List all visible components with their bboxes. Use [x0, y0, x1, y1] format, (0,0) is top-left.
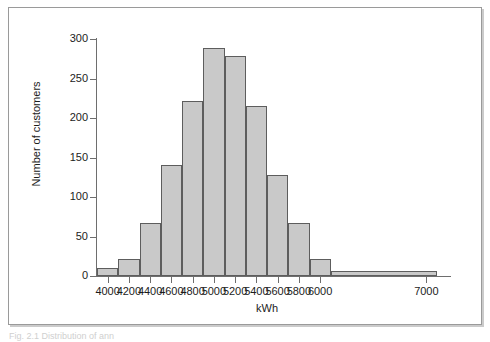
figure-frame: Number of customers 0 50 100 150 200 250…: [8, 7, 482, 325]
histogram-bar: [288, 223, 309, 276]
y-axis-tick-label: 200: [54, 112, 88, 123]
y-axis-tick-label: 150: [54, 152, 88, 163]
x-axis-tick: [193, 277, 194, 283]
histogram-bar: [118, 259, 139, 276]
x-axis-tick: [235, 277, 236, 283]
y-axis-tick-label-group: 100: [50, 191, 88, 202]
histogram-bar: [161, 165, 182, 276]
y-axis-tick-label-group: 50: [50, 231, 88, 242]
y-axis-tick-label: 100: [54, 191, 88, 202]
x-axis-tick: [129, 277, 130, 283]
y-axis-tick-label-group: 0: [50, 270, 88, 281]
y-axis-tick: [90, 197, 96, 198]
histogram-bar: [225, 56, 246, 276]
y-axis-tick-label: 250: [54, 73, 88, 84]
y-axis-tick-label: 300: [54, 33, 88, 44]
histogram-bar: [182, 101, 203, 276]
y-axis-title: Number of customers: [30, 64, 42, 204]
x-axis-tick: [256, 277, 257, 283]
x-axis-tick: [171, 277, 172, 283]
y-axis-tick-label-group: 150: [50, 152, 88, 163]
y-axis-tick-label: 0: [54, 270, 88, 281]
plot-area: [97, 39, 437, 276]
histogram-bar: [140, 223, 161, 276]
y-axis-tick: [90, 237, 96, 238]
histogram-bar: [203, 48, 224, 276]
x-axis-tick: [299, 277, 300, 283]
x-axis-tick: [426, 277, 427, 283]
x-axis-title: kWh: [97, 302, 437, 314]
x-axis-tick: [150, 277, 151, 283]
x-axis-tick-label: 7000: [410, 285, 442, 297]
histogram-bar: [246, 106, 267, 276]
x-axis-tick-label: 6000: [304, 285, 336, 297]
histogram-bar: [310, 259, 331, 276]
y-axis-tick-label-group: 250: [50, 73, 88, 84]
figure-caption: Fig. 2.1 Distribution of ann: [9, 331, 479, 342]
histogram-bar: [267, 175, 288, 276]
y-axis-tick: [90, 39, 96, 40]
x-axis-tick: [108, 277, 109, 283]
y-axis-tick: [90, 158, 96, 159]
x-axis-tick: [278, 277, 279, 283]
figure-page: Number of customers 0 50 100 150 200 250…: [0, 0, 490, 342]
y-axis-tick-label-group: 300: [50, 33, 88, 44]
y-axis-tick: [90, 79, 96, 80]
y-axis-tick-label: 50: [54, 231, 88, 242]
histogram-bar: [97, 268, 118, 276]
y-axis-tick-label-group: 200: [50, 112, 88, 123]
y-axis-tick: [90, 118, 96, 119]
x-axis-tick: [320, 277, 321, 283]
histogram-bar: [331, 271, 437, 276]
y-axis-tick: [90, 276, 96, 277]
x-axis-tick: [214, 277, 215, 283]
